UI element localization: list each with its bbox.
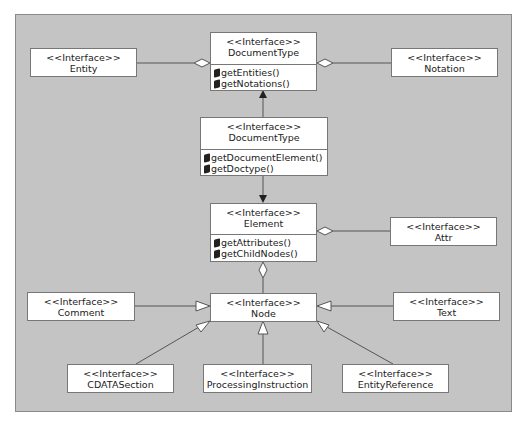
interface-name: Element [211, 218, 316, 229]
aggregation-diamond-entity [194, 59, 210, 67]
interface-name: ProcessingInstruction [204, 379, 311, 390]
operation-item: getEntities() [214, 67, 316, 78]
interface-cdata-section[interactable]: <<Interface>> CDATASection [67, 364, 174, 393]
interface-name: EntityReference [343, 379, 448, 390]
interface-notation[interactable]: <<Interface>> Notation [391, 48, 498, 77]
aggregation-diamond-notation [317, 59, 333, 67]
method-icon [214, 249, 220, 258]
interface-name: Node [211, 308, 316, 319]
method-icon [204, 164, 210, 173]
interface-name: DocumentType [211, 47, 316, 58]
interface-element[interactable]: <<Interface>> Element getAttributes() ge… [210, 203, 317, 262]
method-icon [214, 68, 220, 77]
method-icon [204, 153, 210, 162]
interface-processing-instruction[interactable]: <<Interface>> ProcessingInstruction [203, 364, 312, 393]
generalization-arrow-comment [196, 301, 210, 311]
operations-list: getEntities() getNotations() [211, 64, 316, 89]
operations-list: getDocumentElement() getDoctype() [201, 149, 327, 174]
method-icon [214, 238, 220, 247]
stereotype-label: <<Interface>> [343, 368, 448, 379]
interface-name: Comment [28, 307, 134, 318]
generalization-arrow-entityref [317, 321, 329, 332]
operation-item: getChildNodes() [214, 248, 316, 259]
interface-name: Text [394, 307, 499, 318]
arrowhead-to-element [259, 195, 267, 203]
interface-document-type-mid[interactable]: <<Interface>> DocumentType getDocumentEl… [200, 117, 328, 176]
aggregation-diamond-attr [317, 227, 333, 235]
operations-list: getAttributes() getChildNodes() [211, 234, 316, 259]
generalization-arrow-pi [258, 321, 268, 334]
generalization-arrow-cdata [196, 321, 210, 332]
stereotype-label: <<Interface>> [211, 36, 316, 47]
operation-item: getNotations() [214, 78, 316, 89]
stereotype-label: <<Interface>> [392, 52, 497, 63]
interface-attr[interactable]: <<Interface>> Attr [390, 217, 497, 246]
interface-entity-reference[interactable]: <<Interface>> EntityReference [342, 364, 449, 393]
stereotype-label: <<Interface>> [68, 368, 173, 379]
stereotype-label: <<Interface>> [391, 221, 496, 232]
interface-name: Entity [31, 63, 136, 74]
stereotype-label: <<Interface>> [201, 121, 327, 132]
interface-text[interactable]: <<Interface>> Text [393, 292, 500, 321]
stereotype-label: <<Interface>> [28, 296, 134, 307]
interface-node[interactable]: <<Interface>> Node [210, 293, 317, 322]
interface-document-type-top[interactable]: <<Interface>> DocumentType getEntities()… [210, 32, 317, 91]
operation-item: getDoctype() [204, 163, 327, 174]
stereotype-label: <<Interface>> [31, 52, 136, 63]
interface-name: Attr [391, 232, 496, 243]
interface-name: DocumentType [201, 132, 327, 143]
operation-item: getAttributes() [214, 237, 316, 248]
interface-name: Notation [392, 63, 497, 74]
interface-entity[interactable]: <<Interface>> Entity [30, 48, 137, 77]
arrowhead-to-doctype-top [259, 90, 267, 98]
interface-comment[interactable]: <<Interface>> Comment [27, 292, 135, 321]
method-icon [214, 79, 220, 88]
aggregation-diamond-node [259, 262, 267, 278]
stereotype-label: <<Interface>> [394, 296, 499, 307]
generalization-arrow-text [317, 301, 331, 311]
stereotype-label: <<Interface>> [204, 368, 311, 379]
interface-name: CDATASection [68, 379, 173, 390]
operation-item: getDocumentElement() [204, 152, 327, 163]
stereotype-label: <<Interface>> [211, 297, 316, 308]
stereotype-label: <<Interface>> [211, 207, 316, 218]
